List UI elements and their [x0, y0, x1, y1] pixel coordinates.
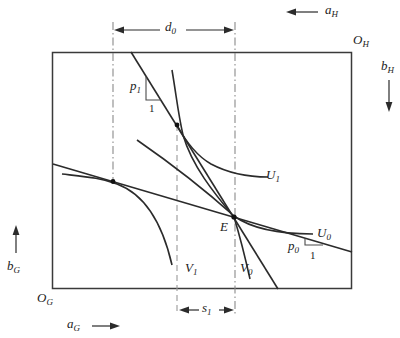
indifference-curve-V1	[62, 174, 172, 265]
label-p0: p0	[288, 239, 299, 255]
aG-axis-arrowhead-icon	[110, 323, 120, 330]
label-a-H: aH	[325, 3, 338, 19]
label-O-G: OG	[37, 291, 53, 307]
bH-axis-arrowhead-icon	[386, 102, 393, 112]
s1-arrowhead-left-icon	[179, 307, 189, 314]
p1-price-line	[131, 52, 278, 289]
aH-axis-arrowhead-icon	[286, 9, 296, 16]
label-V0: V0	[240, 261, 252, 277]
s1-arrowhead-right-icon	[224, 307, 234, 314]
label-E: E	[220, 220, 228, 234]
d0-arrowhead-left-icon	[114, 27, 124, 34]
label-a-G: aG	[67, 317, 80, 333]
label-b-G: bG	[7, 259, 20, 275]
label-b-H: bH	[381, 59, 394, 75]
label-d0: d0	[165, 20, 176, 36]
bG-axis-arrowhead-icon	[13, 225, 20, 235]
tangency-point-V1-p0	[111, 179, 116, 184]
indifference-curve-U1	[177, 125, 268, 177]
label-s1: s1	[202, 301, 212, 317]
label-V1: V1	[185, 261, 197, 277]
diagram-canvas	[0, 0, 400, 338]
edgeworth-box	[53, 53, 352, 289]
d0-arrowhead-right-icon	[224, 27, 234, 34]
tangency-point-U1-p1	[175, 123, 180, 128]
label-U1: U1	[266, 168, 280, 184]
label-p1: p1	[130, 79, 141, 95]
label-p1-unit: 1	[149, 101, 155, 115]
label-U0: U0	[317, 226, 331, 242]
edgeworth-box-figure: aH OH bH d0 p1 1 U1 U0 p0 1 E V1 V0 bG O…	[0, 0, 400, 338]
label-O-H: OH	[353, 33, 369, 49]
equilibrium-point-E	[231, 214, 236, 219]
label-p0-unit: 1	[310, 248, 316, 262]
